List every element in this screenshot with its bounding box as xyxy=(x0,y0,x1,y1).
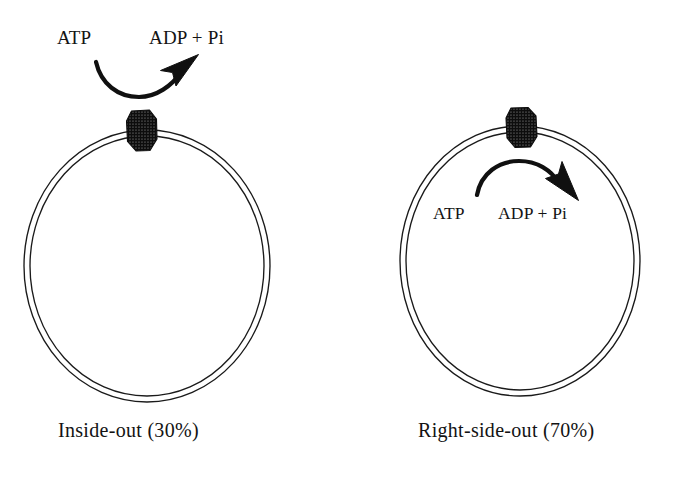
right-side-out-caption: Right-side-out (70%) xyxy=(418,420,595,440)
membrane-inner-line xyxy=(406,132,634,390)
vesicle-orientation-figure: ATP ADP + Pi ATP ADP + Pi Inside-out (30… xyxy=(0,0,682,482)
figure-drawing-canvas xyxy=(0,0,682,482)
reaction-arrow-inside-out xyxy=(96,55,199,98)
inside-out-caption: Inside-out (30%) xyxy=(58,420,199,440)
panel-right-side-out xyxy=(400,108,640,397)
panel-inside-out xyxy=(24,55,270,403)
right-side-out-substrate-label: ATP xyxy=(433,205,465,223)
vesicle-membrane-right-side-out xyxy=(400,126,640,396)
vesicle-membrane-inside-out xyxy=(24,130,270,402)
membrane-outer-line xyxy=(24,130,270,402)
membrane-inner-line xyxy=(30,136,264,396)
membrane-outer-line xyxy=(400,126,640,396)
right-side-out-products-label: ADP + Pi xyxy=(498,205,567,223)
enzyme-particle-right-side-out xyxy=(506,108,537,148)
inside-out-substrate-label: ATP xyxy=(57,28,91,47)
enzyme-particle-inside-out xyxy=(127,110,158,151)
reaction-arrow-right-side-out xyxy=(477,161,579,201)
inside-out-products-label: ADP + Pi xyxy=(149,28,224,47)
